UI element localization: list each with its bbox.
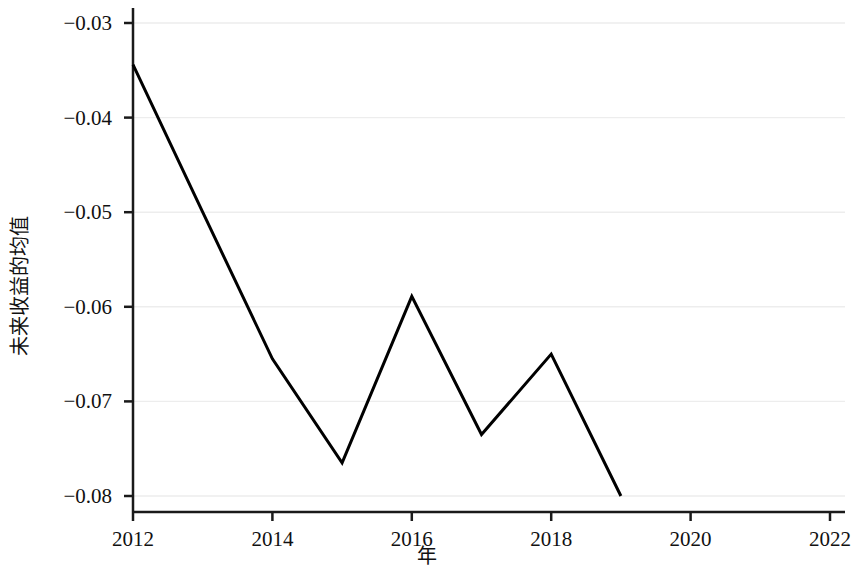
axis-spines xyxy=(133,8,845,512)
y-axis-ticks xyxy=(124,23,133,496)
x-axis-title: 年 xyxy=(0,540,853,569)
chart-figure: −0.03−0.04−0.05−0.06−0.07−0.08 201220142… xyxy=(0,0,853,571)
y-axis-title: 未来收益的均值 xyxy=(0,0,36,571)
line-chart-plot xyxy=(0,0,853,571)
x-axis-ticks xyxy=(133,512,830,521)
data-series-line xyxy=(133,65,621,496)
